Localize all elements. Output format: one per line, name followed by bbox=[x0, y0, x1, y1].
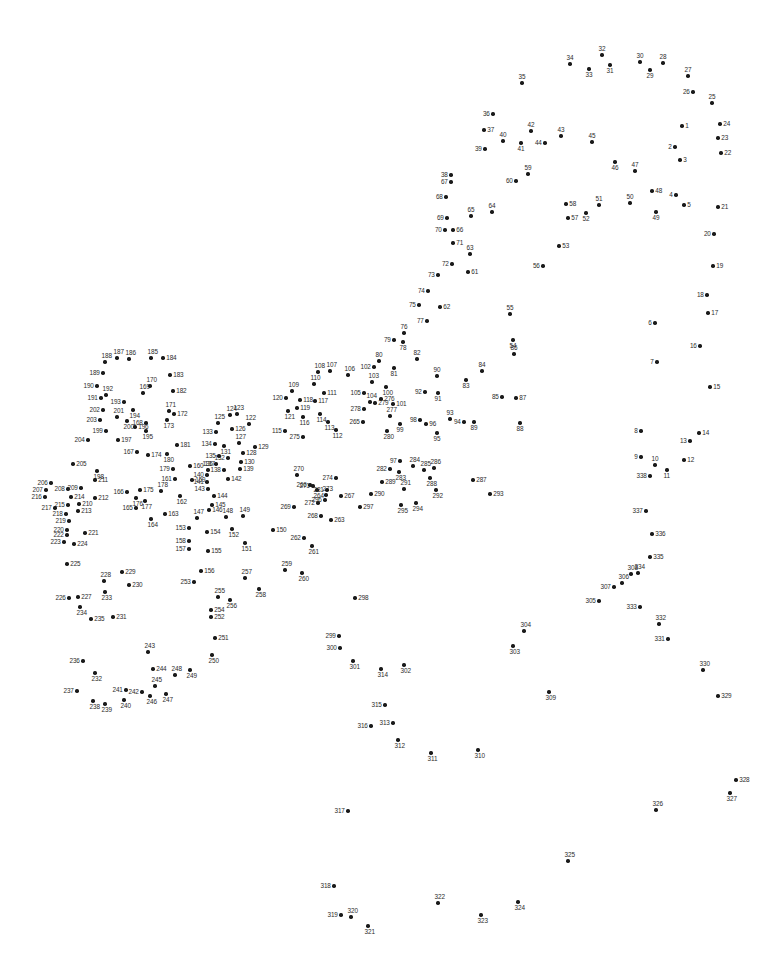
dot-marker-icon bbox=[391, 721, 394, 724]
dot-number-label: 58 bbox=[569, 201, 576, 207]
dot-marker-icon bbox=[325, 488, 328, 491]
dot-number-label: 152 bbox=[229, 532, 239, 538]
dot-marker-icon bbox=[122, 400, 125, 403]
dot-marker-icon bbox=[195, 516, 198, 519]
dot-number-label: 46 bbox=[612, 165, 619, 171]
dot-marker-icon bbox=[76, 509, 79, 512]
dot-marker-icon bbox=[398, 459, 401, 462]
dot-marker-icon bbox=[81, 659, 84, 662]
dot-number-label: 61 bbox=[471, 269, 478, 275]
dot-marker-icon bbox=[153, 684, 156, 687]
dot-number-label: 144 bbox=[217, 493, 227, 499]
dot-marker-icon bbox=[86, 438, 89, 441]
dot-marker-icon bbox=[600, 53, 603, 56]
dot-number-label: 189 bbox=[89, 370, 99, 376]
dot-marker-icon bbox=[500, 395, 503, 398]
dot-number-label: 118 bbox=[303, 397, 313, 403]
dot-number-label: 323 bbox=[478, 918, 488, 924]
dot-number-label: 56 bbox=[533, 263, 540, 269]
dot-marker-icon bbox=[508, 312, 511, 315]
dot-number-label: 200 bbox=[124, 424, 134, 430]
dot-marker-icon bbox=[710, 101, 713, 104]
dot-marker-icon bbox=[171, 467, 174, 470]
dot-marker-icon bbox=[443, 228, 446, 231]
dot-number-label: 4 bbox=[669, 192, 672, 198]
dot-number-label: 313 bbox=[379, 720, 389, 726]
dot-marker-icon bbox=[680, 124, 683, 127]
dot-marker-icon bbox=[362, 407, 365, 410]
dot-marker-icon bbox=[686, 74, 689, 77]
dot-marker-icon bbox=[377, 359, 380, 362]
dot-number-label: 287 bbox=[476, 477, 486, 483]
dot-number-label: 98 bbox=[410, 417, 417, 423]
dot-number-label: 306 bbox=[619, 574, 629, 580]
dot-number-label: 109 bbox=[289, 382, 299, 388]
dot-number-label: 236 bbox=[69, 658, 79, 664]
dot-number-label: 209 bbox=[67, 485, 77, 491]
dot-number-label: 319 bbox=[327, 912, 337, 918]
dot-number-label: 223 bbox=[50, 539, 60, 545]
dot-number-label: 172 bbox=[177, 411, 187, 417]
dot-number-label: 259 bbox=[282, 561, 292, 567]
dot-marker-icon bbox=[93, 478, 96, 481]
dot-number-label: 225 bbox=[70, 561, 80, 567]
dot-marker-icon bbox=[597, 203, 600, 206]
dot-marker-icon bbox=[719, 151, 722, 154]
dot-number-label: 71 bbox=[456, 240, 463, 246]
dot-number-label: 249 bbox=[187, 673, 197, 679]
dot-number-label: 316 bbox=[357, 723, 367, 729]
dot-number-label: 83 bbox=[463, 383, 470, 389]
dot-number-label: 186 bbox=[126, 350, 136, 356]
dot-marker-icon bbox=[514, 396, 517, 399]
dot-marker-icon bbox=[372, 365, 375, 368]
dot-number-label: 1 bbox=[685, 123, 688, 129]
dot-number-label: 242 bbox=[128, 689, 138, 695]
dot-number-label: 6 bbox=[648, 320, 651, 326]
dot-number-label: 113 bbox=[325, 425, 335, 431]
dot-number-label: 78 bbox=[400, 345, 407, 351]
dot-marker-icon bbox=[541, 264, 544, 267]
dot-number-label: 62 bbox=[443, 304, 450, 310]
dot-number-label: 330 bbox=[700, 661, 710, 667]
dot-marker-icon bbox=[383, 703, 386, 706]
dot-number-label: 246 bbox=[147, 699, 157, 705]
dot-marker-icon bbox=[298, 398, 301, 401]
dot-number-label: 180 bbox=[164, 457, 174, 463]
dot-number-label: 88 bbox=[517, 426, 524, 432]
dot-marker-icon bbox=[666, 637, 669, 640]
dot-marker-icon bbox=[241, 514, 244, 517]
dot-number-label: 256 bbox=[227, 603, 237, 609]
dot-number-label: 291 bbox=[401, 480, 411, 486]
dot-number-label: 247 bbox=[163, 697, 173, 703]
dot-number-label: 280 bbox=[384, 434, 394, 440]
dot-marker-icon bbox=[445, 216, 448, 219]
dot-marker-icon bbox=[209, 615, 212, 618]
dot-marker-icon bbox=[392, 338, 395, 341]
dot-marker-icon bbox=[188, 464, 191, 467]
dot-marker-icon bbox=[212, 494, 215, 497]
dot-number-label: 335 bbox=[653, 554, 663, 560]
dot-marker-icon bbox=[462, 420, 465, 423]
dot-marker-icon bbox=[337, 634, 340, 637]
dot-marker-icon bbox=[418, 418, 421, 421]
dot-number-label: 221 bbox=[88, 530, 98, 536]
dot-number-label: 124 bbox=[227, 406, 237, 412]
dot-marker-icon bbox=[77, 502, 80, 505]
dot-marker-icon bbox=[213, 442, 216, 445]
dot-marker-icon bbox=[213, 636, 216, 639]
dot-marker-icon bbox=[102, 579, 105, 582]
dot-number-label: 129 bbox=[258, 444, 268, 450]
dot-number-label: 133 bbox=[202, 429, 212, 435]
dot-number-label: 74 bbox=[418, 288, 425, 294]
dot-marker-icon bbox=[653, 463, 656, 466]
dot-marker-icon bbox=[115, 356, 118, 359]
dot-marker-icon bbox=[222, 468, 225, 471]
dot-marker-icon bbox=[644, 509, 647, 512]
dot-marker-icon bbox=[529, 129, 532, 132]
dot-number-label: 22 bbox=[724, 150, 731, 156]
dot-number-label: 327 bbox=[727, 796, 737, 802]
dot-marker-icon bbox=[241, 451, 244, 454]
dot-number-label: 204 bbox=[74, 437, 84, 443]
dot-number-label: 182 bbox=[176, 388, 186, 394]
dot-number-label: 156 bbox=[204, 568, 214, 574]
